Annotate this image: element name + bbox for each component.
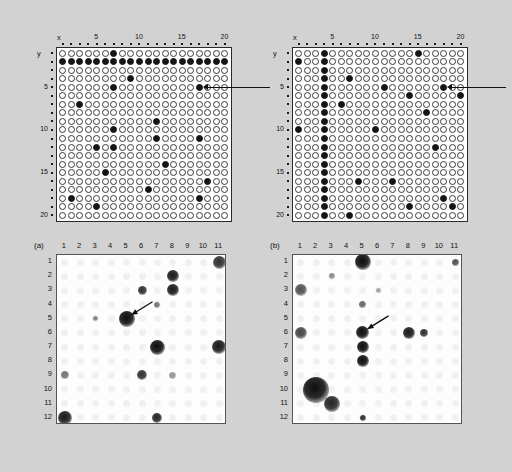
y-tick-14 [51,163,53,165]
open-circle-5-16 [93,178,100,185]
open-circle-15-5 [179,84,186,91]
open-circle-3-14 [312,161,319,168]
x-tick-18 [443,43,445,45]
y-tick-14 [287,163,289,165]
open-circle-1-18 [295,195,302,202]
open-circle-16-7 [423,101,430,108]
open-circle-16-3 [187,67,194,74]
open-circle-2-10 [304,126,311,133]
open-circle-12-20 [389,212,396,219]
open-circle-13-6 [162,92,169,99]
column-label-5: 5 [354,241,370,250]
open-circle-11-4 [381,75,388,82]
column-label-9: 9 [179,241,195,250]
x-tick-16 [190,43,192,45]
x-tick-3 [315,43,317,45]
x-tick-1 [298,43,300,45]
y-tick-3 [287,69,289,71]
x-tick-12 [392,43,394,45]
y-tick-6 [51,95,53,97]
filled-circle-7-1 [110,50,117,57]
open-circle-11-12 [381,144,388,151]
open-circle-20-12 [221,144,228,151]
open-circle-10-13 [372,152,379,159]
column-label-1: 1 [56,241,72,250]
open-circle-3-12 [312,144,319,151]
open-circle-5-18 [329,195,336,202]
row-label-8: 8 [270,355,288,364]
open-circle-15-13 [179,152,186,159]
open-circle-1-18 [59,195,66,202]
x-tick-13 [164,43,166,45]
open-circle-9-12 [127,144,134,151]
open-circle-2-13 [304,152,311,159]
open-circle-2-14 [68,161,75,168]
open-circle-14-16 [170,178,177,185]
open-circle-17-13 [432,152,439,159]
x-tick-3 [79,43,81,45]
open-circle-1-7 [59,101,66,108]
open-circle-1-5 [295,84,302,91]
open-circle-3-5 [76,84,83,91]
open-circle-13-9 [162,118,169,125]
open-circle-15-12 [415,144,422,151]
open-circle-14-1 [406,50,413,57]
open-circle-9-1 [363,50,370,57]
open-circle-19-9 [213,118,220,125]
y-tick-7 [51,103,53,105]
open-circle-20-1 [221,50,228,57]
open-circle-15-18 [179,195,186,202]
open-circle-8-7 [119,101,126,108]
filled-circle-4-17 [321,186,328,193]
open-circle-11-6 [145,92,152,99]
open-circle-16-14 [423,161,430,168]
open-circle-10-18 [136,195,143,202]
filled-circle-4-12 [321,144,328,151]
open-circle-10-18 [372,195,379,202]
open-circle-2-8 [304,109,311,116]
column-label-1: 1 [292,241,308,250]
open-circle-11-18 [381,195,388,202]
x-tick-5 [332,43,334,45]
open-circle-14-5 [406,84,413,91]
open-circle-2-16 [68,178,75,185]
row-label-6: 6 [270,327,288,336]
figure-canvas: xy51015205101520 xy51015205101520 (a)123… [0,0,512,472]
annotation-pointer-line [208,87,270,88]
open-circle-11-11 [381,135,388,142]
open-circle-2-14 [304,161,311,168]
filled-circle-4-9 [321,118,328,125]
x-tick-7 [349,43,351,45]
open-circle-8-12 [355,144,362,151]
open-circle-12-14 [153,161,160,168]
open-circle-14-7 [170,101,177,108]
open-circle-13-1 [162,50,169,57]
open-circle-8-18 [119,195,126,202]
open-circle-15-17 [179,186,186,193]
open-circle-14-5 [170,84,177,91]
open-circle-5-5 [93,84,100,91]
open-circle-19-14 [213,161,220,168]
open-circle-16-1 [187,50,194,57]
x-tick-1 [62,43,64,45]
y-tick-18 [51,197,53,199]
open-circle-6-20 [102,212,109,219]
open-circle-19-3 [213,67,220,74]
open-circle-15-11 [179,135,186,142]
open-circle-18-3 [204,67,211,74]
column-label-2: 2 [71,241,87,250]
open-circle-6-1 [102,50,109,57]
column-label-2: 2 [307,241,323,250]
open-circle-9-3 [363,67,370,74]
y-tick-10 [287,129,289,131]
open-circle-13-8 [398,109,405,116]
open-circle-17-1 [432,50,439,57]
x-tick-6 [340,43,342,45]
open-circle-6-14 [338,161,345,168]
open-circle-11-11 [145,135,152,142]
open-circle-8-20 [119,212,126,219]
open-circle-2-1 [304,50,311,57]
open-circle-5-1 [93,50,100,57]
open-circle-2-11 [68,135,75,142]
open-circle-4-15 [85,169,92,176]
